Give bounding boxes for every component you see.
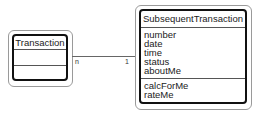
operation-rate-me: rateMe [144, 90, 245, 99]
attribute-about-me: aboutMe [144, 66, 245, 75]
subsequent-transaction-class[interactable]: SubsequentTransaction number date time s… [139, 9, 247, 104]
association-line[interactable] [72, 56, 135, 57]
multiplicity-transaction: n [75, 58, 79, 65]
transaction-class-name: Transaction [14, 36, 66, 50]
transaction-operations [14, 66, 66, 79]
transaction-class[interactable]: Transaction [12, 34, 68, 81]
subsequent-transaction-class-name: SubsequentTransaction [141, 11, 245, 28]
subsequent-transaction-operations: calcForMe rateMe [141, 79, 245, 99]
multiplicity-subsequent-transaction: 1 [125, 58, 129, 65]
subsequent-transaction-attributes: number date time status aboutMe [141, 28, 245, 79]
transaction-attributes [14, 50, 66, 66]
